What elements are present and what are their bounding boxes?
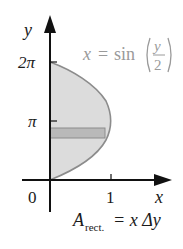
eq-denominator: 2: [154, 57, 162, 73]
eq-left-paren: [147, 38, 150, 72]
figure: y 2π π 0 1 x x = sin y 2 A rect. = x Δy: [0, 0, 183, 249]
eq-func: sin: [114, 44, 135, 64]
curve-equation: x = sin y 2: [82, 38, 171, 73]
x-tick-label-0: 0: [28, 188, 37, 207]
area-formula: A rect. = x Δy: [72, 210, 161, 233]
y-tick-label-pi: π: [28, 112, 37, 131]
x-axis-label: x: [154, 187, 163, 207]
area-rest: = x Δy: [113, 210, 161, 230]
y-axis-label: y: [22, 20, 32, 40]
rectangle-strip: [50, 128, 105, 138]
eq-right-paren: [168, 38, 171, 72]
area-A: A: [72, 210, 85, 230]
x-axis-arrow-icon: [154, 174, 172, 186]
y-tick-label-2pi: 2π: [18, 53, 36, 72]
eq-numerator: y: [152, 38, 161, 54]
area-subscript: rect.: [85, 221, 104, 233]
y-axis-arrow-icon: [44, 15, 56, 33]
shaded-region: [50, 62, 111, 180]
plot-canvas: y 2π π 0 1 x x = sin y 2 A rect. = x Δy: [0, 0, 183, 249]
eq-equals: =: [98, 44, 108, 64]
x-tick-label-1: 1: [106, 188, 115, 207]
eq-lhs: x: [82, 44, 91, 64]
